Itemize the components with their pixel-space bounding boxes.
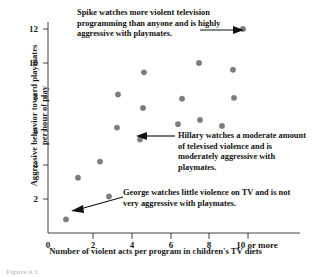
figure-caption: Figure 6.1: [6, 268, 38, 276]
data-point: [141, 70, 146, 75]
scatter-plot-figure: 12 10 8 6 4 2 0 2 4 6 8 10 or more Aggre…: [0, 0, 314, 277]
data-point: [114, 125, 119, 130]
data-point: [140, 105, 145, 110]
data-point: [97, 159, 102, 164]
y-tick-label-12: 12: [18, 24, 38, 34]
annotation-george: George watches little violence on TV and…: [123, 188, 303, 209]
data-point: [219, 123, 224, 128]
george-arrow: [71, 197, 123, 213]
data-point-george: [63, 217, 68, 222]
annotation-spike: Spike watches more violent television pr…: [77, 8, 227, 40]
data-point: [231, 95, 236, 100]
data-point: [115, 92, 120, 97]
y-axis-title: Aggressive behavior toward playmates per…: [29, 40, 50, 190]
data-point: [106, 194, 111, 199]
x-axis-title: Number of violent acts per program in ch…: [48, 246, 263, 256]
data-point: [175, 122, 180, 127]
data-point: [230, 67, 235, 72]
data-point: [179, 96, 184, 101]
y-tick-label-2: 2: [18, 194, 38, 204]
data-point: [75, 175, 80, 180]
data-point: [196, 60, 201, 65]
x-axis-ticks: [93, 233, 248, 239]
data-point: [197, 117, 202, 122]
annotation-hillary: Hillary watches a moderate amount of tel…: [178, 131, 310, 173]
